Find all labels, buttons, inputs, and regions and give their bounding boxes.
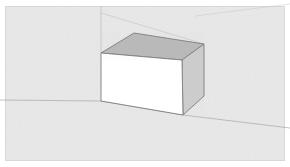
scene-svg[interactable] — [0, 0, 290, 167]
viewport-canvas[interactable] — [0, 0, 290, 167]
